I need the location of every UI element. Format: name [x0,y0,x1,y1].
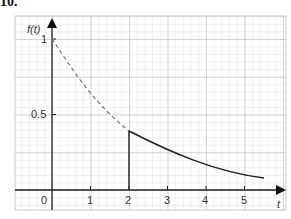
x-tick-4: 4 [202,194,208,206]
x-tick-2: 2 [125,194,131,206]
x-tick-3: 3 [164,194,170,206]
x-tick-5: 5 [241,194,247,206]
y-tick-1: 1 [41,33,47,45]
x-tick-1: 1 [87,194,93,206]
chart: f(t) 1 0.5 0 1 2 3 4 5 t [0,0,291,219]
y-tick-05: 0.5 [31,108,46,120]
y-axis-label: f(t) [27,23,41,35]
x-tick-0: 0 [41,194,47,206]
